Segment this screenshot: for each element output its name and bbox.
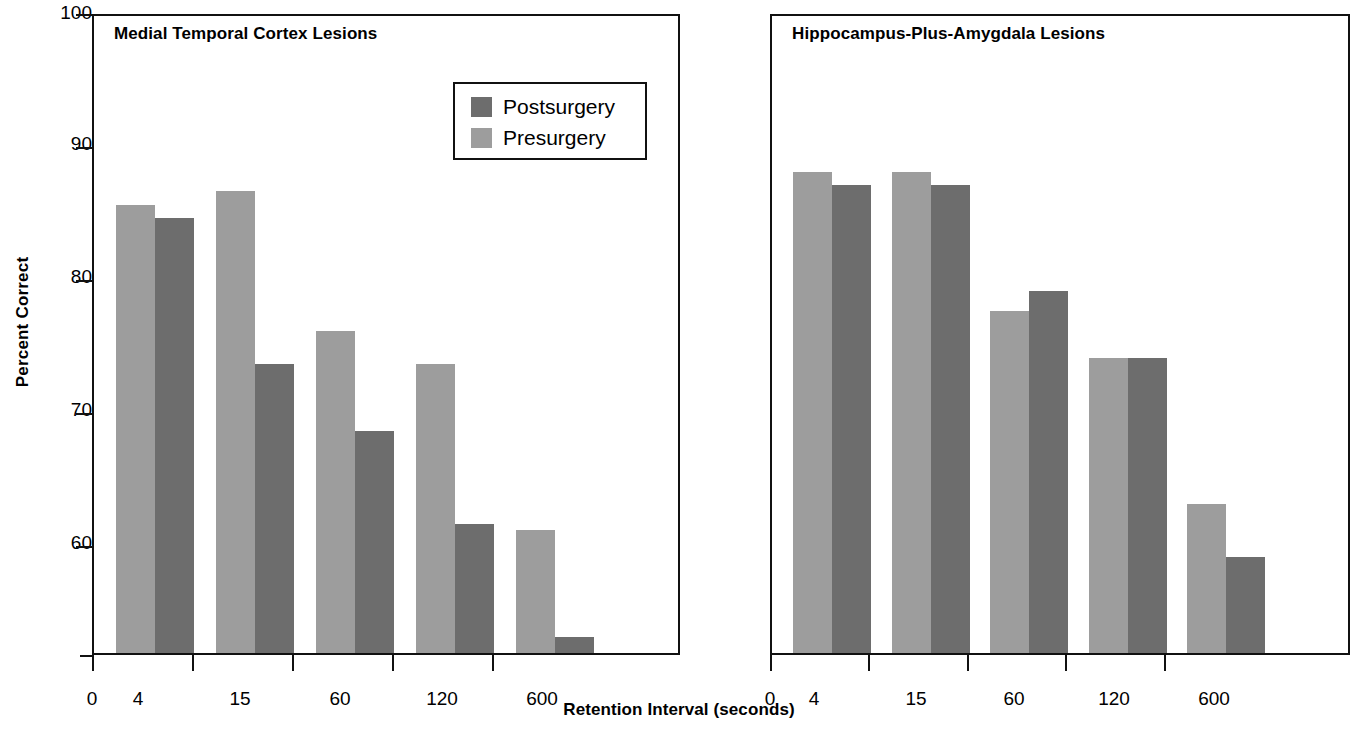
x-tick-mark [868, 655, 870, 671]
bar-postsurgery-600 [1226, 557, 1265, 653]
x-tick-mark [292, 655, 294, 671]
bar-presurgery-4 [116, 205, 155, 653]
bar-presurgery-4 [793, 172, 832, 654]
bar-postsurgery-120 [1128, 358, 1167, 653]
x-axis-title: Retention Interval (seconds) [0, 700, 1358, 720]
panel-right-x-axis-line [770, 653, 1350, 655]
bar-presurgery-15 [892, 172, 931, 654]
bar-presurgery-60 [316, 331, 355, 653]
panel-left-x-axis-line [92, 653, 680, 655]
bar-presurgery-600 [516, 530, 555, 653]
y-tick-label: 60 [46, 533, 92, 552]
y-origin-tick-mark [80, 655, 92, 657]
panel-medial-temporal-cortex: Medial Temporal Cortex Lesions Postsurge… [92, 0, 680, 660]
bar-postsurgery-60 [355, 431, 394, 653]
y-tick-mark [76, 546, 92, 548]
y-tick-label: 80 [46, 267, 92, 286]
bar-presurgery-120 [1089, 358, 1128, 653]
y-tick-label: 100 [46, 3, 92, 22]
bar-presurgery-600 [1187, 504, 1226, 653]
y-tick-label: 70 [46, 400, 92, 419]
bar-postsurgery-600 [555, 637, 594, 653]
bar-group-container-left [92, 14, 680, 653]
x-tick-mark [967, 655, 969, 671]
y-tick-mark [76, 413, 92, 415]
x-tick-mark [192, 655, 194, 671]
bar-postsurgery-15 [255, 364, 294, 653]
bar-presurgery-15 [216, 191, 255, 653]
x-tick-mark [492, 655, 494, 671]
panel-hippocampus-plus-amygdala: Hippocampus-Plus-Amygdala Lesions 0 4 15… [770, 0, 1350, 660]
y-tick-mark [76, 14, 92, 16]
x-tick-mark [1065, 655, 1067, 671]
y-axis-title: Percent Correct [13, 237, 33, 407]
bar-postsurgery-4 [155, 218, 194, 653]
bar-presurgery-120 [416, 364, 455, 653]
x-tick-mark [1164, 655, 1166, 671]
x-tick-mark [770, 655, 772, 671]
y-tick-label: 90 [46, 134, 92, 153]
bar-postsurgery-4 [832, 185, 871, 653]
bar-postsurgery-120 [455, 524, 494, 653]
x-tick-mark [92, 655, 94, 671]
bar-group-container-right [770, 14, 1350, 653]
x-tick-mark [392, 655, 394, 671]
bar-postsurgery-60 [1029, 291, 1068, 653]
bar-postsurgery-15 [931, 185, 970, 653]
y-tick-mark [76, 280, 92, 282]
y-tick-mark [76, 147, 92, 149]
bar-presurgery-60 [990, 311, 1029, 653]
figure-two-panel-bar-chart: 100 90 80 70 60 Percent Correct Medial T… [0, 0, 1358, 734]
